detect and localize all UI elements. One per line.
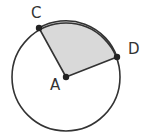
label-c: C <box>31 4 41 22</box>
point-c <box>36 25 42 31</box>
label-d: D <box>128 40 140 58</box>
circle-diagram: C D A <box>0 0 147 137</box>
label-a: A <box>50 76 61 94</box>
point-d <box>114 54 120 60</box>
point-a-center <box>63 74 69 80</box>
shaded-sector-cad <box>39 21 117 77</box>
